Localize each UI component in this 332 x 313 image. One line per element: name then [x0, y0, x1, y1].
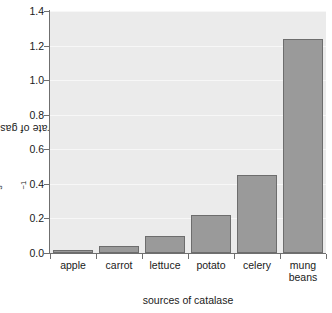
x-axis-tick-label-line: mung [280, 260, 326, 272]
x-axis-tick-label: potato [188, 260, 234, 272]
x-axis-tick-labels: applecarrotlettucepotatocelerymungbeans [50, 260, 326, 290]
y-axis-tick-label: 1.0 [29, 75, 44, 85]
y-axis-tick-mark [44, 149, 49, 150]
gridline [50, 11, 326, 12]
x-axis-tick-mark [326, 254, 327, 259]
bar-chart: rate of gas production/cm3 s−1 0.00.20.4… [0, 0, 332, 313]
x-axis-tick-label: mungbeans [280, 260, 326, 283]
x-axis-tick-mark [142, 254, 143, 259]
x-axis-title: sources of catalase [50, 294, 326, 306]
x-axis-tick-mark [50, 254, 51, 259]
y-axis-tick-mark [44, 184, 49, 185]
y-axis-tick-mark [44, 218, 49, 219]
y-axis-tick-label: 0.4 [29, 179, 44, 189]
x-axis-tick-label-line: lettuce [142, 260, 188, 272]
y-axis-tick-mark [44, 80, 49, 81]
y-axis-tick-label: 0.8 [29, 110, 44, 120]
y-axis-tick-mark [44, 253, 49, 254]
y-axis-tick-label: 1.4 [29, 6, 44, 16]
bar [237, 175, 276, 253]
bar [53, 250, 92, 253]
y-axis-tick-label: 0.2 [29, 213, 44, 223]
y-axis-tick-labels: 0.00.20.40.60.81.01.21.4 [16, 0, 46, 258]
y-axis-title-sup-cubic: 3 [0, 185, 4, 189]
y-axis-tick-mark [44, 115, 49, 116]
x-axis-tick-mark [280, 254, 281, 259]
y-axis-tick-label: 0.0 [29, 248, 44, 258]
x-axis-tick-label: lettuce [142, 260, 188, 272]
x-axis-tick-label-line: beans [280, 272, 326, 284]
x-axis-tick-label-line: celery [234, 260, 280, 272]
x-axis-tick-mark [234, 254, 235, 259]
x-axis-tick-mark [188, 254, 189, 259]
bar [191, 215, 230, 253]
bar [99, 246, 138, 253]
y-axis-tick-mark [44, 11, 49, 12]
bar [283, 39, 322, 253]
y-axis-tick-label: 0.6 [29, 144, 44, 154]
x-axis-tick-label: apple [50, 260, 96, 272]
x-axis-tick-mark [96, 254, 97, 259]
y-axis-tick-mark [44, 46, 49, 47]
y-axis-tick-label: 1.2 [29, 41, 44, 51]
plot-area [50, 11, 326, 253]
x-axis-tick-label: carrot [96, 260, 142, 272]
x-axis-tick-label-line: apple [50, 260, 96, 272]
y-axis-title: rate of gas production/cm3 s−1 [0, 0, 16, 258]
x-axis-tick-label-line: carrot [96, 260, 142, 272]
x-axis-tick-label: celery [234, 260, 280, 272]
x-axis-tick-label-line: potato [188, 260, 234, 272]
bar [145, 236, 184, 253]
